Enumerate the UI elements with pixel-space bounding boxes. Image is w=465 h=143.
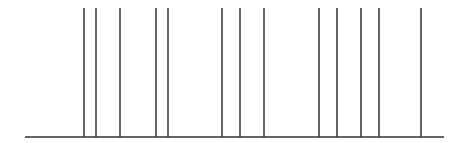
event-diagram	[0, 0, 465, 143]
event-lines	[84, 8, 421, 137]
